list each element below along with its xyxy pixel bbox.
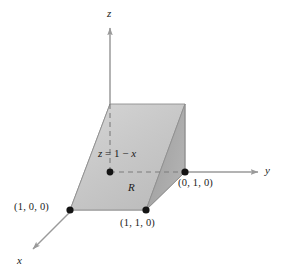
z-axis-label: z (107, 8, 111, 19)
corner-vertex-label: (1, 1, 0) (120, 218, 155, 229)
x-axis-label: x (17, 255, 22, 266)
x-axis-vertex-dot (66, 206, 73, 213)
plane-equation-constant: 1 (114, 147, 120, 159)
corner-vertex-dot (142, 206, 149, 213)
solid-diagram-svg (0, 0, 282, 278)
x-axis-vertex-label: (1, 0, 0) (14, 202, 49, 213)
origin-point-dot (107, 169, 114, 176)
y-axis-label: y (265, 165, 270, 176)
plane-equation-variable: x (131, 147, 136, 159)
plane-equation-label: z = 1 − x (98, 148, 136, 159)
figure-canvas: z y x z = 1 − x R (1, 0, 0) (1, 1, 0) (0… (0, 0, 282, 278)
y-axis-vertex-label: (0, 1, 0) (178, 178, 213, 189)
region-label: R (128, 182, 135, 193)
y-axis-vertex-dot (181, 168, 188, 175)
